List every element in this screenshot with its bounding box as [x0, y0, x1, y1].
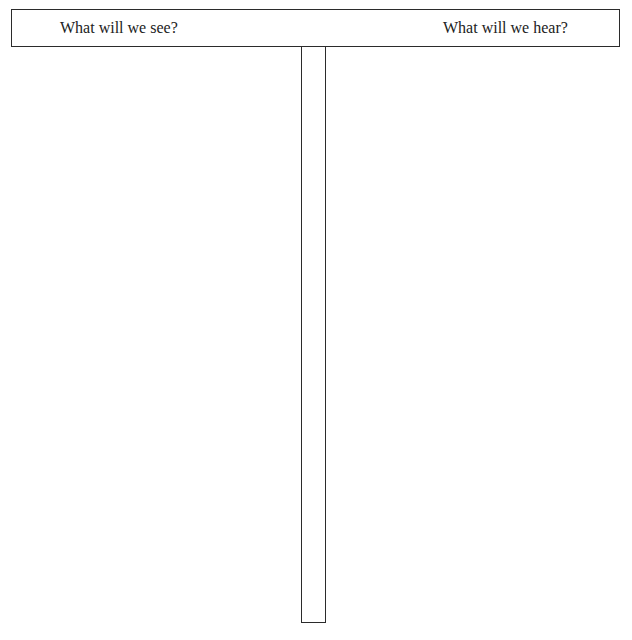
see-column-heading: What will we see? — [60, 10, 178, 46]
see-column-area — [11, 48, 299, 628]
t-chart-header: What will we see? What will we hear? — [11, 9, 620, 47]
hear-column-heading: What will we hear? — [443, 10, 568, 46]
hear-column-area — [328, 48, 620, 628]
t-chart-divider — [301, 47, 326, 623]
